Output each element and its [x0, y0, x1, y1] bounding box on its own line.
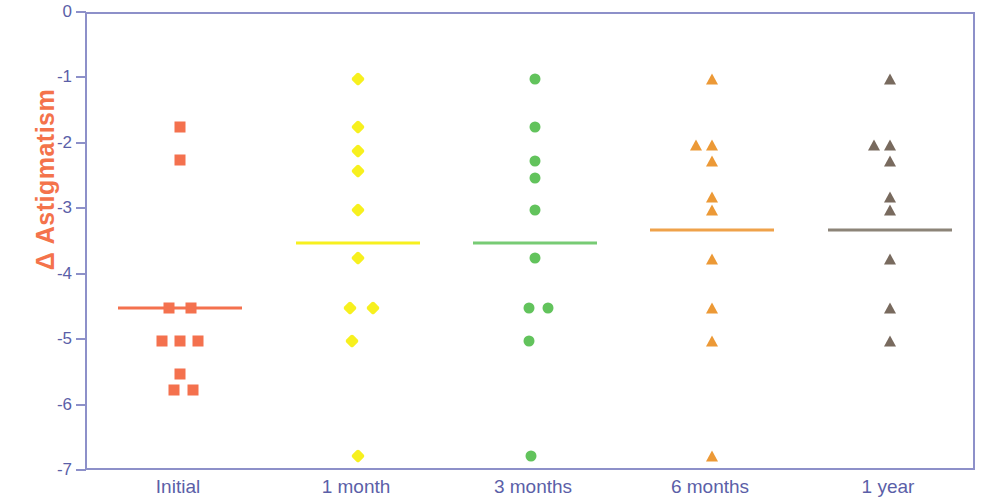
- data-point: [175, 154, 186, 165]
- data-point: [164, 303, 175, 314]
- data-point: [530, 122, 541, 133]
- data-point: [530, 205, 541, 216]
- data-point: [157, 336, 168, 347]
- y-axis-tick-label: -4: [30, 264, 72, 284]
- data-point: [530, 172, 541, 183]
- data-point: [884, 205, 896, 216]
- x-axis-label-3-months: 3 months: [494, 476, 572, 498]
- plot-area: [85, 12, 975, 470]
- mean-line-initial: [118, 307, 242, 310]
- data-point: [175, 336, 186, 347]
- x-axis-label-1-month: 1 month: [322, 476, 391, 498]
- data-point: [884, 336, 896, 347]
- data-point: [884, 139, 896, 150]
- astigmatism-scatter-chart: Δ Astigmatism 0-1-2-3-4-5-6-7 Initial1 m…: [0, 0, 983, 504]
- data-point: [366, 301, 380, 315]
- mean-line-1-year: [828, 228, 952, 231]
- data-point: [351, 72, 365, 86]
- data-point: [193, 336, 204, 347]
- data-point: [868, 139, 880, 150]
- mean-line-1-month: [296, 242, 420, 245]
- data-point: [690, 139, 702, 150]
- data-point: [706, 205, 718, 216]
- data-point: [884, 303, 896, 314]
- data-point: [351, 164, 365, 178]
- data-point: [884, 74, 896, 85]
- data-point: [530, 156, 541, 167]
- data-point: [351, 251, 365, 265]
- data-point: [351, 144, 365, 158]
- data-point: [175, 368, 186, 379]
- data-point: [706, 192, 718, 203]
- y-axis-tick-label-group: 0-1-2-3-4-5-6-7: [0, 0, 72, 504]
- x-axis-label-1-year: 1 year: [862, 476, 915, 498]
- y-axis-tick-label: -3: [30, 198, 72, 218]
- mean-line-6-months: [650, 228, 774, 231]
- y-axis-tick-label: -1: [30, 67, 72, 87]
- data-point: [706, 303, 718, 314]
- data-point: [706, 336, 718, 347]
- data-point: [884, 156, 896, 167]
- y-axis-tick-label: -7: [30, 460, 72, 480]
- y-axis-tick-label: 0: [30, 2, 72, 22]
- x-axis-label-initial: Initial: [156, 476, 200, 498]
- data-point: [530, 74, 541, 85]
- data-point: [706, 254, 718, 265]
- data-point: [526, 450, 537, 461]
- data-point: [188, 385, 199, 396]
- y-axis-tick-label: -5: [30, 329, 72, 349]
- data-point: [524, 336, 535, 347]
- data-point: [169, 385, 180, 396]
- data-point: [884, 254, 896, 265]
- y-axis-tick-label: -2: [30, 133, 72, 153]
- data-point: [530, 253, 541, 264]
- data-point: [186, 303, 197, 314]
- data-point: [351, 120, 365, 134]
- data-point: [175, 122, 186, 133]
- data-point: [706, 74, 718, 85]
- data-point: [351, 203, 365, 217]
- data-point: [524, 303, 535, 314]
- data-point: [706, 450, 718, 461]
- data-point: [343, 301, 357, 315]
- y-axis-tick-label: -6: [30, 395, 72, 415]
- mean-line-3-months: [473, 242, 597, 245]
- data-point: [706, 156, 718, 167]
- data-point: [345, 334, 359, 348]
- data-point: [884, 192, 896, 203]
- data-point: [706, 139, 718, 150]
- x-axis-label-6-months: 6 months: [671, 476, 749, 498]
- data-point: [543, 303, 554, 314]
- data-point: [351, 449, 365, 463]
